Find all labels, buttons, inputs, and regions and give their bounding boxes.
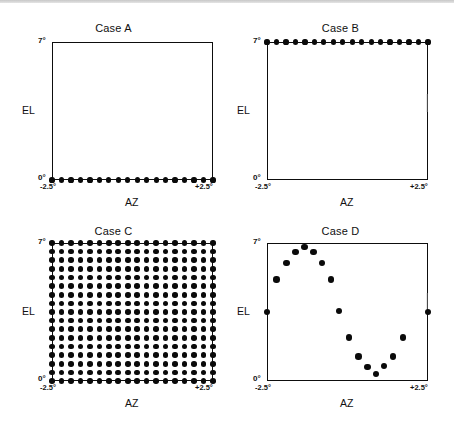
data-point <box>201 361 207 367</box>
data-point <box>115 283 121 289</box>
scan-artifact-top-rule <box>0 0 454 3</box>
data-point <box>78 309 84 315</box>
y-tick-min-case-a: 0° <box>38 173 46 182</box>
data-point <box>87 257 93 263</box>
data-point <box>153 301 159 307</box>
data-point <box>210 309 216 315</box>
data-point <box>87 292 93 298</box>
data-point <box>97 275 103 281</box>
data-point <box>49 318 55 324</box>
data-point <box>201 283 207 289</box>
data-point <box>106 283 112 289</box>
data-point <box>97 318 103 324</box>
data-point <box>144 301 150 307</box>
data-point <box>125 266 131 272</box>
data-point <box>59 301 65 307</box>
data-point <box>97 352 103 358</box>
y-tick-max-case-d: 7° <box>253 237 261 246</box>
data-point <box>115 352 121 358</box>
data-point <box>49 301 55 307</box>
data-point <box>319 260 325 266</box>
data-point <box>163 318 169 324</box>
data-point <box>210 257 216 263</box>
data-point <box>264 309 270 315</box>
data-point <box>59 249 65 255</box>
data-point <box>191 266 197 272</box>
data-point <box>68 335 74 341</box>
data-point <box>49 275 55 281</box>
data-point <box>49 249 55 255</box>
data-point <box>191 361 197 367</box>
data-point <box>116 177 121 182</box>
y-tick-min-case-b: 0° <box>253 173 261 182</box>
data-point <box>125 370 131 376</box>
data-point <box>134 352 140 358</box>
data-point <box>163 275 169 281</box>
data-point <box>153 283 159 289</box>
y-axis-label-case-a: EL <box>22 104 35 116</box>
data-point <box>201 301 207 307</box>
data-point <box>125 249 131 255</box>
data-point <box>78 361 84 367</box>
data-point <box>163 335 169 341</box>
data-point <box>97 301 103 307</box>
data-point <box>182 177 187 182</box>
data-point <box>182 335 188 341</box>
x-tick-min-case-c: -2.5° <box>40 383 56 392</box>
data-point <box>78 292 84 298</box>
data-point <box>210 370 216 376</box>
data-point <box>106 177 111 182</box>
data-point <box>125 275 131 281</box>
data-point <box>78 249 84 255</box>
data-point <box>182 292 188 298</box>
data-point <box>210 249 216 255</box>
x-tick-min-case-a: -2.5° <box>40 182 56 191</box>
data-point <box>182 318 188 324</box>
data-point <box>144 249 150 255</box>
data-point <box>115 292 121 298</box>
data-point <box>163 249 169 255</box>
data-point <box>87 378 93 384</box>
data-point <box>144 275 150 281</box>
data-point <box>425 39 430 44</box>
data-point <box>59 257 65 263</box>
data-point <box>292 249 298 255</box>
data-point <box>59 275 65 281</box>
data-point <box>135 177 140 182</box>
data-point <box>68 344 74 350</box>
data-point <box>68 266 74 272</box>
data-point <box>59 335 65 341</box>
data-point <box>163 309 169 315</box>
data-point <box>125 378 131 384</box>
panel-case-b: Case B 7° 0° -2.5° +2.5° EL AZ <box>227 10 454 215</box>
panel-case-a: Case A 7° 0° -2.5° +2.5° EL AZ <box>0 10 227 215</box>
data-point <box>201 257 207 263</box>
data-point <box>191 301 197 307</box>
data-point <box>106 335 112 341</box>
data-point <box>78 257 84 263</box>
x-axis-label-case-b: AZ <box>340 196 353 208</box>
data-point <box>210 266 216 272</box>
data-point <box>153 309 159 315</box>
data-point <box>59 283 65 289</box>
y-tick-max-case-c: 7° <box>38 237 46 246</box>
data-point <box>49 335 55 341</box>
data-point <box>49 283 55 289</box>
data-point <box>172 292 178 298</box>
data-point <box>163 352 169 358</box>
data-point <box>210 352 216 358</box>
data-point <box>163 370 169 376</box>
data-point <box>201 335 207 341</box>
data-point <box>355 353 361 359</box>
data-point <box>346 334 352 340</box>
data-point <box>125 309 131 315</box>
data-point <box>210 240 216 246</box>
data-point <box>364 364 370 370</box>
data-point <box>97 283 103 289</box>
data-point <box>312 39 317 44</box>
data-point <box>201 249 207 255</box>
data-point <box>115 370 121 376</box>
data-point <box>59 370 65 376</box>
data-point <box>87 309 93 315</box>
data-point <box>125 335 131 341</box>
